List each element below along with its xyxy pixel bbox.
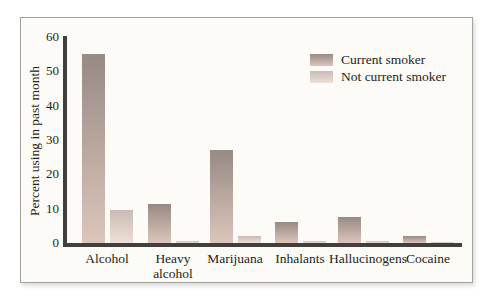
x-label-alcohol: Alcohol xyxy=(73,251,141,266)
x-axis-line xyxy=(63,243,462,247)
legend-swatch-current-smoker xyxy=(310,54,333,66)
y-tick-label-30: 30 xyxy=(27,132,59,148)
x-label-marijuana: Marijuana xyxy=(201,251,269,266)
bar-hallucinogens-current-smoker xyxy=(338,217,361,243)
bar-marijuana-not-current-smoker xyxy=(238,236,261,243)
screenshot-root: { "figure": { "background": "#fcfbf7", "… xyxy=(0,0,490,297)
y-tick-label-40: 40 xyxy=(27,98,59,114)
y-tick-label-20: 20 xyxy=(27,166,59,182)
bar-inhalants-current-smoker xyxy=(275,222,298,243)
legend-row-current-smoker: Current smoker xyxy=(310,51,446,68)
bar-cocaine-current-smoker xyxy=(403,236,426,243)
y-tick-label-0: 0 xyxy=(27,235,59,251)
y-tick-label-50: 50 xyxy=(27,63,59,79)
legend-swatch-not-current-smoker xyxy=(310,71,333,83)
legend-row-not-current-smoker: Not current smoker xyxy=(310,68,446,85)
y-axis-line xyxy=(63,36,67,247)
x-label-cocaine: Cocaine xyxy=(394,251,462,266)
x-label-hallucinogens: Hallucinogens xyxy=(329,251,397,266)
legend-label-current-smoker: Current smoker xyxy=(341,52,425,68)
bar-marijuana-current-smoker xyxy=(210,150,233,243)
y-tick-label-10: 10 xyxy=(27,201,59,217)
bar-heavy-alcohol-current-smoker xyxy=(148,204,171,243)
x-label-inhalants: Inhalants xyxy=(266,251,334,266)
x-label-heavy-alcohol: Heavy alcohol xyxy=(139,251,207,281)
legend: Current smoker Not current smoker xyxy=(310,51,446,85)
y-tick-label-60: 60 xyxy=(27,29,59,45)
legend-label-not-current-smoker: Not current smoker xyxy=(341,69,446,85)
bar-alcohol-not-current-smoker xyxy=(110,210,133,243)
bar-alcohol-current-smoker xyxy=(82,54,105,243)
